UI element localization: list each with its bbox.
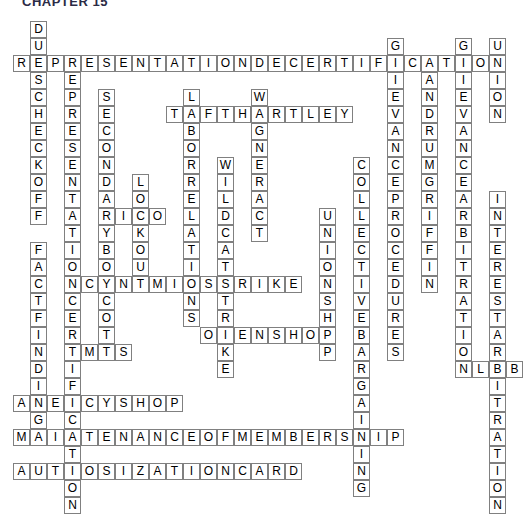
crossword-cell[interactable]: E	[217, 361, 234, 378]
crossword-cell[interactable]: A	[455, 293, 472, 310]
crossword-cell[interactable]: D	[387, 276, 404, 293]
crossword-cell[interactable]: G	[387, 38, 404, 55]
crossword-cell[interactable]: S	[336, 429, 353, 446]
crossword-cell[interactable]: Z	[132, 463, 149, 480]
crossword-cell[interactable]: B	[183, 123, 200, 140]
crossword-cell[interactable]: H	[132, 395, 149, 412]
crossword-cell[interactable]: O	[387, 225, 404, 242]
crossword-cell[interactable]: O	[98, 140, 115, 157]
crossword-cell[interactable]: R	[13, 55, 30, 72]
crossword-cell[interactable]: R	[183, 157, 200, 174]
crossword-cell[interactable]: F	[421, 225, 438, 242]
crossword-cell[interactable]: I	[387, 55, 404, 72]
crossword-cell[interactable]: C	[30, 89, 47, 106]
crossword-cell[interactable]: M	[81, 344, 98, 361]
crossword-cell[interactable]: C	[98, 293, 115, 310]
crossword-cell[interactable]: S	[489, 293, 506, 310]
crossword-cell[interactable]: A	[183, 106, 200, 123]
crossword-cell[interactable]: I	[115, 208, 132, 225]
crossword-cell[interactable]: T	[438, 55, 455, 72]
crossword-cell[interactable]: C	[30, 140, 47, 157]
crossword-cell[interactable]: I	[166, 276, 183, 293]
crossword-cell[interactable]: R	[234, 276, 251, 293]
crossword-cell[interactable]: H	[30, 106, 47, 123]
crossword-cell[interactable]: I	[64, 361, 81, 378]
crossword-cell[interactable]: A	[132, 429, 149, 446]
crossword-cell[interactable]: A	[13, 463, 30, 480]
crossword-cell[interactable]: N	[319, 276, 336, 293]
crossword-cell[interactable]: G	[353, 480, 370, 497]
crossword-cell[interactable]: A	[149, 463, 166, 480]
crossword-cell[interactable]: E	[64, 72, 81, 89]
crossword-cell[interactable]: T	[455, 310, 472, 327]
crossword-cell[interactable]: D	[98, 174, 115, 191]
crossword-cell[interactable]: N	[353, 463, 370, 480]
crossword-cell[interactable]: C	[30, 276, 47, 293]
crossword-cell[interactable]: T	[166, 106, 183, 123]
crossword-cell[interactable]: T	[64, 446, 81, 463]
crossword-cell[interactable]: C	[251, 208, 268, 225]
crossword-cell[interactable]: P	[166, 395, 183, 412]
crossword-cell[interactable]: N	[489, 55, 506, 72]
crossword-cell[interactable]: F	[421, 242, 438, 259]
crossword-cell[interactable]: D	[251, 55, 268, 72]
crossword-cell[interactable]: R	[268, 106, 285, 123]
crossword-cell[interactable]: R	[268, 463, 285, 480]
crossword-cell[interactable]: E	[387, 327, 404, 344]
crossword-cell[interactable]: I	[455, 242, 472, 259]
crossword-cell[interactable]: R	[387, 310, 404, 327]
crossword-cell[interactable]: C	[81, 276, 98, 293]
crossword-cell[interactable]: O	[489, 480, 506, 497]
crossword-cell[interactable]: A	[98, 191, 115, 208]
crossword-cell[interactable]: E	[98, 106, 115, 123]
crossword-cell[interactable]: E	[64, 157, 81, 174]
crossword-cell[interactable]: T	[81, 429, 98, 446]
crossword-cell[interactable]: T	[30, 293, 47, 310]
crossword-cell[interactable]: C	[404, 55, 421, 72]
crossword-cell[interactable]: S	[183, 310, 200, 327]
crossword-cell[interactable]: E	[353, 310, 370, 327]
crossword-cell[interactable]: F	[30, 242, 47, 259]
crossword-cell[interactable]: R	[353, 361, 370, 378]
crossword-cell[interactable]: B	[506, 361, 523, 378]
crossword-cell[interactable]: C	[98, 123, 115, 140]
crossword-cell[interactable]: K	[30, 157, 47, 174]
crossword-cell[interactable]: A	[64, 429, 81, 446]
crossword-cell[interactable]: O	[149, 395, 166, 412]
crossword-cell[interactable]: A	[217, 242, 234, 259]
crossword-cell[interactable]: A	[489, 429, 506, 446]
crossword-cell[interactable]: A	[421, 55, 438, 72]
crossword-cell[interactable]: I	[183, 259, 200, 276]
crossword-cell[interactable]: N	[98, 157, 115, 174]
crossword-cell[interactable]: K	[132, 225, 149, 242]
crossword-cell[interactable]: N	[64, 276, 81, 293]
crossword-cell[interactable]: F	[217, 429, 234, 446]
crossword-cell[interactable]: E	[285, 276, 302, 293]
crossword-cell[interactable]: T	[489, 225, 506, 242]
crossword-cell[interactable]: I	[115, 463, 132, 480]
crossword-cell[interactable]: E	[234, 327, 251, 344]
crossword-cell[interactable]: O	[472, 55, 489, 72]
crossword-cell[interactable]: T	[489, 446, 506, 463]
crossword-cell[interactable]: B	[285, 429, 302, 446]
crossword-cell[interactable]: I	[421, 259, 438, 276]
crossword-cell[interactable]: C	[387, 157, 404, 174]
crossword-cell[interactable]: O	[149, 208, 166, 225]
crossword-cell[interactable]: N	[353, 429, 370, 446]
crossword-cell[interactable]: V	[353, 293, 370, 310]
crossword-cell[interactable]: T	[217, 259, 234, 276]
crossword-cell[interactable]: H	[319, 310, 336, 327]
crossword-cell[interactable]: E	[251, 157, 268, 174]
crossword-cell[interactable]: U	[489, 38, 506, 55]
crossword-cell[interactable]: V	[387, 106, 404, 123]
crossword-cell[interactable]: M	[421, 157, 438, 174]
crossword-cell[interactable]: E	[183, 429, 200, 446]
crossword-cell[interactable]: E	[353, 225, 370, 242]
crossword-cell[interactable]: T	[353, 259, 370, 276]
crossword-cell[interactable]: N	[115, 429, 132, 446]
crossword-cell[interactable]: R	[455, 208, 472, 225]
crossword-cell[interactable]: O	[200, 327, 217, 344]
crossword-cell[interactable]: I	[353, 55, 370, 72]
crossword-cell[interactable]: C	[455, 157, 472, 174]
crossword-cell[interactable]: R	[251, 174, 268, 191]
